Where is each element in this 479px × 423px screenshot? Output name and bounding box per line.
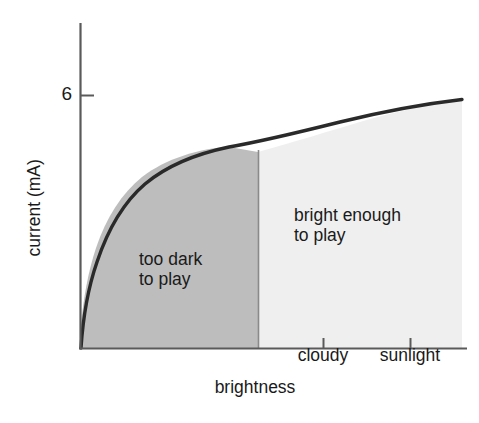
region-label-too-dark: too darkto play bbox=[139, 250, 202, 289]
region-label-bright-enough-line2: to play bbox=[294, 225, 346, 245]
region-label-bright-enough-line1: bright enough bbox=[294, 205, 401, 225]
y-axis-title: current (mA) bbox=[25, 118, 45, 298]
x-tick-label-sunlight: sunlight bbox=[364, 346, 456, 366]
x-tick-label-cloudy: cloudy bbox=[280, 346, 366, 366]
chart-figure: current (mA) brightness 6 cloudy sunligh… bbox=[0, 0, 479, 423]
region-label-too-dark-line2: to play bbox=[139, 269, 191, 289]
x-axis-title: brightness bbox=[185, 378, 325, 398]
y-tick-label-6: 6 bbox=[50, 83, 72, 104]
region-too-dark bbox=[81, 147, 259, 348]
region-label-too-dark-line1: too dark bbox=[139, 249, 202, 269]
region-label-bright-enough: bright enoughto play bbox=[294, 206, 401, 245]
